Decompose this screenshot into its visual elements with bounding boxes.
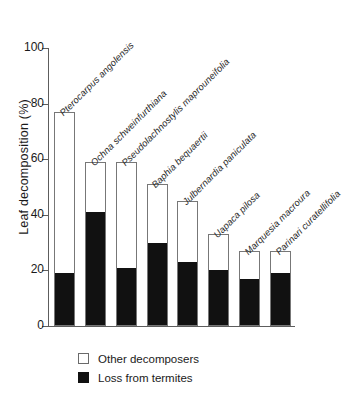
y-axis-title: Leaf decomposition (%) bbox=[17, 57, 31, 277]
bar-segment-termites bbox=[55, 273, 74, 325]
legend-swatch-white bbox=[78, 353, 89, 364]
y-tick-label: 0 bbox=[37, 318, 44, 332]
bar-segment-termites bbox=[148, 243, 167, 325]
bar-2 bbox=[85, 162, 106, 326]
x-axis-line bbox=[48, 326, 295, 327]
bar-6 bbox=[208, 234, 229, 326]
y-tick-label: 100 bbox=[24, 40, 44, 54]
bar-segment-termites bbox=[209, 270, 228, 325]
bar-segment-termites bbox=[271, 273, 290, 325]
legend-item-1: Other decomposers bbox=[78, 349, 199, 368]
y-tick-label: 40 bbox=[31, 207, 44, 221]
legend-swatch-black bbox=[78, 372, 89, 383]
bar-7 bbox=[239, 251, 260, 326]
bar-1 bbox=[54, 112, 75, 326]
legend-label: Loss from termites bbox=[98, 372, 193, 384]
legend-label: Other decomposers bbox=[98, 353, 199, 365]
y-tick-label: 60 bbox=[31, 151, 44, 165]
bar-segment-termites bbox=[86, 212, 105, 325]
bar-5 bbox=[177, 201, 198, 326]
bar-segment-termites bbox=[240, 279, 259, 325]
bar-segment-termites bbox=[178, 262, 197, 325]
bar-8 bbox=[270, 251, 291, 326]
chart-figure: Leaf decomposition (%) 020406080100 Pter… bbox=[0, 0, 355, 396]
bar-3 bbox=[116, 162, 137, 326]
y-tick-label: 20 bbox=[31, 262, 44, 276]
y-tick-label: 80 bbox=[31, 96, 44, 110]
chart-legend: Other decomposersLoss from termites bbox=[78, 349, 199, 387]
bar-4 bbox=[147, 184, 168, 326]
y-axis-line bbox=[48, 48, 49, 326]
legend-item-2: Loss from termites bbox=[78, 368, 199, 387]
bar-segment-termites bbox=[117, 268, 136, 325]
